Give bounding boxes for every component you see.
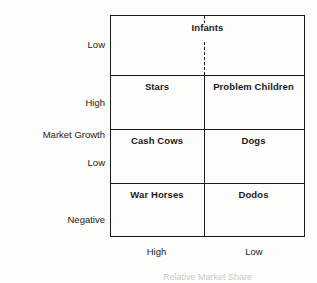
x-axis-title: Relative Market Share [110,272,305,283]
growth-share-matrix-diagram: Low High Market Growth Low Negative Infa… [0,0,317,283]
y-axis-tick-high: High [85,97,105,109]
y-axis-tick-negative: Negative [68,214,106,226]
matrix-cell-dodos: Dodos [203,183,304,237]
matrix-cell-stars: Stars [111,75,203,129]
matrix-cell-infants: Infants [111,16,304,75]
x-axis-tick-high: High [110,246,203,258]
matrix-cell-war-horses: War Horses [111,183,203,237]
matrix-row-infants: Infants [111,16,304,75]
matrix-box: Infants Stars Problem Children Cash Cows… [110,15,305,237]
matrix-cell-label: War Horses [130,189,183,201]
matrix-cell-label: Stars [145,81,169,93]
x-axis-tick-low: Low [203,246,305,258]
matrix-cell-dogs: Dogs [203,129,304,183]
matrix-cell-cash-cows: Cash Cows [111,129,203,183]
matrix-cell-label: Dogs [241,135,265,147]
y-axis-tick-low-top: Low [88,39,105,51]
matrix-cell-label: Dodos [238,189,268,201]
matrix-row-low-growth: Cash Cows Dogs [111,129,304,183]
matrix-cell-label: Cash Cows [131,135,183,147]
y-axis-title: Market Growth [43,129,105,141]
matrix-cell-problem-children: Problem Children [203,75,304,129]
matrix-row-high-growth: Stars Problem Children [111,75,304,129]
matrix-cell-label: Problem Children [213,81,294,93]
matrix-cell-label: Infants [192,22,224,34]
matrix-row-negative-growth: War Horses Dodos [111,183,304,237]
y-axis-tick-low-mid: Low [88,157,105,169]
